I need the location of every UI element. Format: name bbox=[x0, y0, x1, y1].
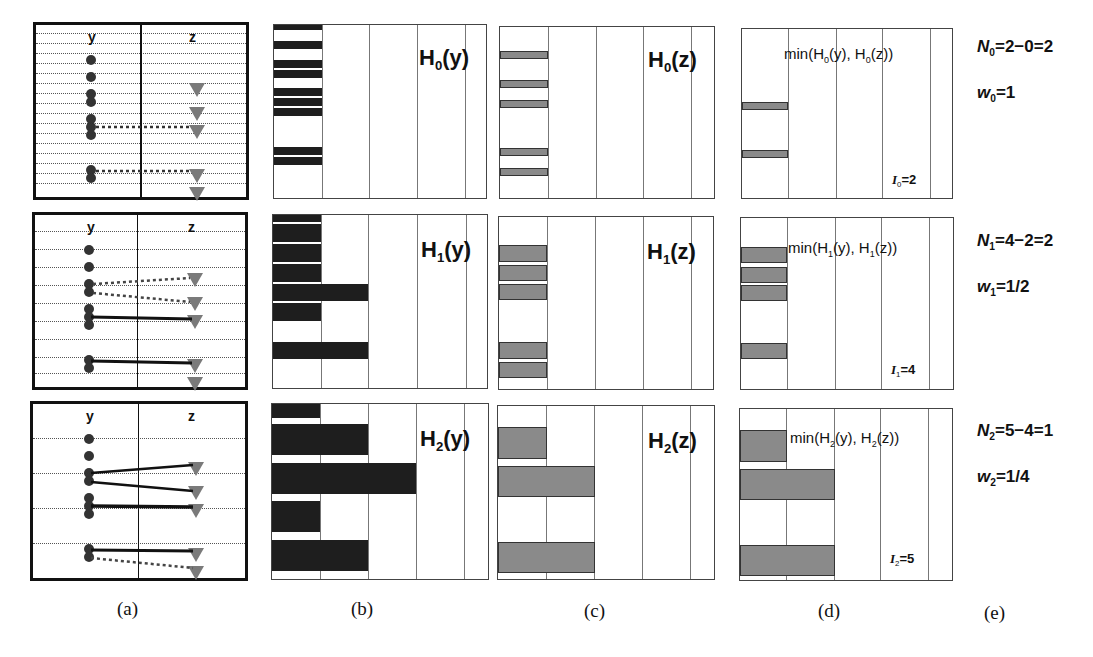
caption-e: (e) bbox=[984, 602, 1005, 624]
new-matches-equation: N1=4−2=2 bbox=[977, 231, 1053, 252]
histogram-title: H2(y) bbox=[420, 426, 470, 454]
histogram-title: H1(z) bbox=[647, 239, 696, 267]
weight-equation: w1=1/2 bbox=[977, 277, 1029, 298]
weight-equation: w2=1/4 bbox=[977, 467, 1029, 488]
histogram-intersection-level-1: min(H1(y), H1(z)) I1=4 bbox=[740, 217, 954, 390]
caption-a: (a) bbox=[117, 598, 138, 620]
histogram-y-level-2: H2(y) bbox=[271, 403, 489, 580]
histogram-z-level-0: H0(z) bbox=[499, 26, 715, 199]
point-set-panel-level-0: y z bbox=[33, 22, 249, 200]
match-lines bbox=[36, 25, 252, 203]
intersection-value: I1=4 bbox=[891, 362, 915, 379]
histogram-intersection-level-0: min(H0(y), H0(z)) I0=2 bbox=[741, 28, 953, 199]
histogram-y-level-1: H1(y) bbox=[272, 214, 488, 389]
intersection-title: min(H2(y), H2(z)) bbox=[790, 429, 899, 449]
point-set-panel-level-2: y z bbox=[30, 401, 248, 581]
match-lines bbox=[33, 404, 251, 584]
caption-b: (b) bbox=[351, 598, 373, 620]
histogram-y-level-0: H0(y) bbox=[273, 24, 487, 199]
histogram-z-level-1: H1(z) bbox=[498, 216, 714, 390]
intersection-title: min(H1(y), H1(z)) bbox=[788, 239, 897, 259]
point-set-panel-level-1: y z bbox=[32, 212, 248, 390]
intersection-value: I2=5 bbox=[890, 551, 914, 568]
intersection-value: I0=2 bbox=[892, 172, 916, 189]
new-matches-equation: N2=5−4=1 bbox=[977, 421, 1053, 442]
intersection-title: min(H0(y), H0(z)) bbox=[784, 45, 893, 65]
caption-c: (c) bbox=[584, 600, 605, 622]
histogram-intersection-level-2: min(H2(y), H2(z)) I2=5 bbox=[739, 408, 953, 581]
histogram-title: H1(y) bbox=[421, 237, 471, 265]
histogram-z-level-2: H2(z) bbox=[497, 405, 715, 580]
match-lines bbox=[35, 215, 251, 393]
caption-d: (d) bbox=[818, 600, 840, 622]
histogram-title: H2(z) bbox=[648, 428, 697, 456]
weight-equation: w0=1 bbox=[977, 83, 1015, 104]
histogram-title: H0(z) bbox=[648, 47, 697, 75]
new-matches-equation: N0=2−0=2 bbox=[977, 37, 1053, 58]
histogram-title: H0(y) bbox=[419, 45, 469, 73]
